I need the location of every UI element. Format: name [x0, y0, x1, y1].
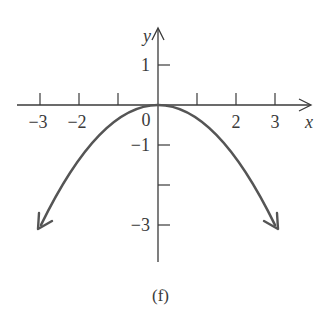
y-axis: 1 −1 −3 y [131, 26, 170, 262]
y-tick-label: −1 [131, 135, 150, 155]
parabola-figure: −3 −2 0 2 3 x 1 −1 −3 y (f) [0, 0, 321, 332]
y-tick-label: −3 [131, 215, 150, 235]
x-tick-label: −2 [67, 112, 86, 132]
x-tick-label: 3 [271, 112, 280, 132]
x-axis: −3 −2 0 2 3 x [17, 93, 313, 132]
figure-caption: (f) [0, 286, 321, 306]
x-tick-label: 2 [232, 112, 241, 132]
x-tick-label: −3 [28, 112, 47, 132]
plot-canvas: −3 −2 0 2 3 x 1 −1 −3 y [0, 0, 321, 332]
y-axis-label: y [141, 26, 151, 46]
y-tick-label: 1 [141, 55, 150, 75]
origin-label: 0 [142, 110, 151, 130]
x-axis-label: x [304, 112, 313, 132]
